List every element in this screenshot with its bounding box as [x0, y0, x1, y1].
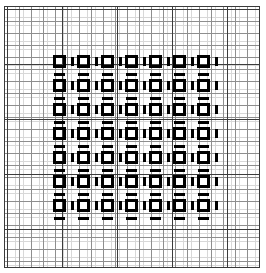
motif-dash-horizontal [78, 145, 89, 148]
motif-dash-horizontal [174, 169, 185, 172]
grid-line-horizontal [5, 9, 259, 10]
motif-square [149, 79, 162, 92]
motif-dash-horizontal [126, 97, 137, 100]
motif-square [173, 55, 186, 68]
motif-square [53, 199, 66, 212]
grid-line-horizontal [5, 185, 259, 186]
motif-dash-horizontal [150, 217, 161, 220]
motif-square [125, 175, 138, 188]
motif-square [125, 199, 138, 212]
grid-line-horizontal [5, 41, 259, 42]
grid-line-vertical [31, 7, 32, 267]
motif-dash-horizontal [174, 97, 185, 100]
grid-line-horizontal [5, 229, 259, 230]
motif-dash-vertical [167, 57, 170, 66]
motif-dash-vertical [143, 129, 146, 138]
grid-line-horizontal [5, 261, 259, 262]
motif-square [101, 127, 114, 140]
motif-dash-vertical [143, 105, 146, 114]
grid-line-vertical [235, 7, 236, 267]
motif-dash-horizontal [198, 217, 209, 220]
grid-line-horizontal [5, 9, 259, 10]
grid-line-horizontal [5, 81, 259, 82]
motif-dash-horizontal [54, 97, 65, 100]
motif-dash-horizontal [54, 73, 65, 76]
grid-line-vertical [7, 7, 8, 267]
grid-line-horizontal [5, 249, 259, 250]
motif-dash-horizontal [150, 169, 161, 172]
motif-dash-vertical [215, 153, 218, 162]
grid-line-vertical [127, 7, 128, 267]
grid-line-horizontal [5, 177, 259, 178]
motif-dash-horizontal [150, 145, 161, 148]
motif-dash-vertical [119, 177, 122, 186]
grid-line-horizontal [5, 65, 259, 66]
motif-dash-horizontal [126, 73, 137, 76]
grid-line-horizontal [5, 45, 259, 46]
motif-dash-horizontal [126, 121, 137, 124]
motif-square [173, 175, 186, 188]
grid-line-vertical [191, 7, 192, 267]
grid-line-vertical [127, 7, 128, 267]
canvas-root [0, 0, 266, 273]
grid-line-vertical [39, 7, 40, 267]
motif-dash-vertical [71, 57, 74, 66]
grid-line-horizontal [5, 141, 259, 142]
motif-dash-vertical [119, 129, 122, 138]
motif-square [173, 127, 186, 140]
motif-dash-vertical [143, 201, 146, 210]
motif-square [77, 127, 90, 140]
grid-line-horizontal [5, 177, 259, 178]
grid-line-vertical [175, 7, 176, 267]
motif-square [101, 175, 114, 188]
motif-dash-vertical [95, 153, 98, 162]
motif-dash-horizontal [54, 145, 65, 148]
motif-dash-vertical [95, 177, 98, 186]
grid-line-horizontal [5, 217, 259, 218]
grid-line-vertical [19, 7, 20, 267]
motif-square [197, 79, 210, 92]
motif-square [125, 127, 138, 140]
grid-line-vertical [62, 7, 63, 267]
grid-line-vertical [163, 7, 164, 267]
motif-dash-vertical [95, 129, 98, 138]
motif-dash-horizontal [198, 145, 209, 148]
motif-dash-horizontal [102, 145, 113, 148]
motif-dash-vertical [167, 153, 170, 162]
grid-line-horizontal [5, 145, 259, 146]
grid-line-horizontal [5, 57, 259, 58]
motif-dash-horizontal [54, 169, 65, 172]
motif-dash-horizontal [78, 121, 89, 124]
motif-square [173, 103, 186, 116]
motif-dash-vertical [71, 201, 74, 210]
grid-line-vertical [223, 7, 224, 267]
grid-line-vertical [159, 7, 160, 267]
grid-line-horizontal [5, 81, 259, 82]
motif-dash-horizontal [174, 121, 185, 124]
grid-line-horizontal [5, 105, 259, 106]
grid-line-vertical [151, 7, 152, 267]
motif-dash-horizontal [150, 193, 161, 196]
grid-line-vertical [31, 7, 32, 267]
grid-line-horizontal [5, 201, 259, 202]
motif-dash-horizontal [102, 193, 113, 196]
figure-frame [4, 6, 260, 268]
motif-dash-horizontal [198, 97, 209, 100]
motif-dash-vertical [191, 153, 194, 162]
grid-line-horizontal [5, 89, 259, 90]
grid-line-vertical [247, 7, 248, 267]
motif-dash-vertical [71, 81, 74, 90]
grid-line-horizontal [5, 201, 259, 202]
motif-dash-horizontal [174, 73, 185, 76]
grid-line-vertical [167, 7, 168, 267]
grid-line-horizontal [5, 119, 259, 120]
motif-square [125, 103, 138, 116]
grid-line-vertical [103, 7, 104, 267]
grid-line-horizontal [5, 257, 259, 258]
motif-dash-vertical [215, 177, 218, 186]
motif-dash-vertical [71, 177, 74, 186]
grid-line-vertical [172, 7, 173, 267]
motif-square [149, 127, 162, 140]
grid-line-vertical [207, 7, 208, 267]
motif-dash-horizontal [198, 121, 209, 124]
